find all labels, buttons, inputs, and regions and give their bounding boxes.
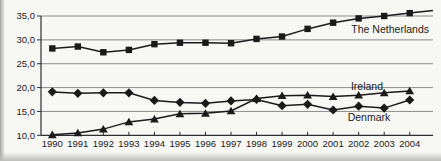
- x-tick-label-2000: 2000: [297, 138, 318, 149]
- marker-diamond-denmark-1999: [277, 101, 286, 110]
- marker-square-the-netherlands-1998: [253, 36, 259, 42]
- x-tick-label-1991: 1991: [67, 138, 88, 149]
- marker-square-the-netherlands-1994: [151, 41, 157, 47]
- marker-diamond-denmark-2002: [354, 102, 363, 111]
- y-tick-label-20: 20,0: [17, 82, 36, 93]
- marker-square-the-netherlands-1996: [202, 40, 208, 46]
- marker-square-the-netherlands-1990: [49, 45, 55, 51]
- marker-square-the-netherlands-1999: [279, 33, 285, 39]
- marker-diamond-denmark-1990: [48, 87, 57, 96]
- marker-square-the-netherlands-2000: [304, 26, 310, 32]
- y-tick-label-35: 35,0: [17, 10, 36, 21]
- marker-square-the-netherlands-1993: [126, 47, 132, 53]
- y-tick-label-25: 25,0: [17, 58, 36, 69]
- marker-square-the-netherlands-2004: [407, 10, 413, 16]
- marker-diamond-denmark-1996: [201, 99, 210, 108]
- marker-diamond-denmark-1993: [124, 88, 133, 97]
- x-tick-label-1993: 1993: [118, 138, 139, 149]
- x-tick-label-1997: 1997: [220, 138, 241, 149]
- marker-square-the-netherlands-1991: [75, 43, 81, 49]
- marker-square-the-netherlands-2002: [355, 15, 361, 21]
- part-time-employment-line-chart: 35,030,025,020,015,010,01990199119921993…: [0, 0, 441, 161]
- x-tick-label-1999: 1999: [271, 138, 292, 149]
- y-tick-label-30: 30,0: [17, 34, 36, 45]
- series-label-ireland: Ireland: [351, 80, 383, 92]
- y-tick-label-15: 15,0: [17, 106, 36, 117]
- marker-diamond-denmark-1991: [73, 89, 82, 98]
- marker-diamond-denmark-1992: [99, 88, 108, 97]
- marker-diamond-denmark-2001: [329, 105, 338, 114]
- marker-diamond-denmark-1997: [226, 96, 235, 105]
- x-tick-label-1998: 1998: [246, 138, 267, 149]
- x-tick-label-2004: 2004: [399, 138, 420, 149]
- series-label-denmark: Denmark: [348, 111, 391, 123]
- series-label-the-netherlands: The Netherlands: [351, 23, 429, 35]
- marker-square-the-netherlands-1992: [100, 49, 106, 55]
- marker-square-the-netherlands-1995: [177, 40, 183, 46]
- marker-diamond-denmark-1994: [150, 96, 159, 105]
- marker-square-the-netherlands-2001: [330, 19, 336, 25]
- marker-diamond-denmark-1998: [252, 95, 261, 104]
- x-tick-label-1992: 1992: [93, 138, 114, 149]
- x-tick-label-2003: 2003: [374, 138, 395, 149]
- x-tick-label-1996: 1996: [195, 138, 216, 149]
- marker-square-the-netherlands-1997: [228, 40, 234, 46]
- marker-diamond-denmark-2004: [405, 95, 414, 104]
- x-tick-label-1994: 1994: [144, 138, 165, 149]
- marker-diamond-denmark-2000: [303, 100, 312, 109]
- x-tick-label-2001: 2001: [323, 138, 344, 149]
- marker-diamond-denmark-1995: [175, 98, 184, 107]
- scanned-figure: 35,030,025,020,015,010,01990199119921993…: [0, 0, 441, 161]
- marker-square-the-netherlands-2003: [381, 13, 387, 19]
- x-tick-label-1995: 1995: [169, 138, 190, 149]
- x-tick-label-2002: 2002: [348, 138, 369, 149]
- y-tick-label-10: 10,0: [17, 130, 36, 141]
- x-tick-label-1990: 1990: [42, 138, 63, 149]
